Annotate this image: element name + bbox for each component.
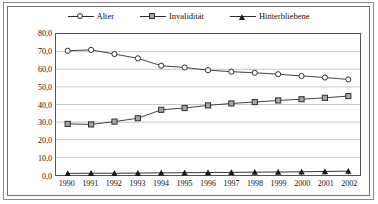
data-point: [159, 63, 164, 68]
x-tick-label: 2000: [294, 179, 310, 188]
y-tick-label: 30,0: [38, 118, 52, 127]
y-tick-label: 60,0: [38, 64, 52, 73]
x-tick-label: 1996: [200, 179, 216, 188]
x-axis-tick-labels: 1990199119921993199419951996199719981999…: [55, 179, 361, 193]
figure-outer-frame: Alter Invalidität Hinterbliebene 0,010,0…: [3, 2, 374, 200]
x-tick-label: 2001: [318, 179, 334, 188]
data-point: [276, 98, 281, 103]
data-point: [229, 69, 234, 74]
data-point: [276, 72, 281, 77]
figure-inner-frame: Alter Invalidität Hinterbliebene 0,010,0…: [7, 6, 370, 196]
y-tick-label: 0,0: [42, 172, 52, 181]
x-tick-label: 1993: [129, 179, 145, 188]
data-point: [88, 122, 93, 127]
x-tick-label: 1994: [153, 179, 169, 188]
chart-plot-area: [55, 33, 361, 176]
chart-series-layer: [56, 34, 360, 175]
data-point: [65, 121, 70, 126]
data-point: [346, 93, 351, 98]
y-tick-label: 50,0: [38, 82, 52, 91]
data-point: [135, 56, 140, 61]
series-hinterbliebene: [65, 168, 352, 176]
data-point: [65, 48, 70, 53]
y-tick-label: 70,0: [38, 46, 52, 55]
data-point: [322, 75, 327, 80]
data-point: [88, 47, 93, 52]
data-point: [112, 119, 117, 124]
data-point: [299, 73, 304, 78]
data-point: [252, 70, 257, 75]
x-tick-label: 1995: [176, 179, 192, 188]
data-point: [229, 101, 234, 106]
data-point: [205, 68, 210, 73]
data-point: [299, 97, 304, 102]
x-tick-label: 1997: [224, 179, 240, 188]
data-point: [346, 77, 351, 82]
chart-plot-wrapper: 0,010,020,030,040,050,060,070,080,0 1990…: [8, 7, 369, 195]
data-point: [205, 103, 210, 108]
x-tick-label: 1992: [106, 179, 122, 188]
series-alter: [65, 47, 351, 82]
x-tick-label: 2002: [341, 179, 357, 188]
y-tick-label: 40,0: [38, 100, 52, 109]
data-point: [112, 52, 117, 57]
x-tick-label: 1998: [247, 179, 263, 188]
data-point: [322, 95, 327, 100]
y-tick-label: 80,0: [38, 29, 52, 38]
data-point: [182, 105, 187, 110]
data-point: [135, 116, 140, 121]
data-point: [182, 65, 187, 70]
x-tick-label: 1990: [59, 179, 75, 188]
x-tick-label: 1999: [271, 179, 287, 188]
series-invalidität: [65, 93, 351, 127]
data-point: [159, 107, 164, 112]
data-point: [252, 99, 257, 104]
y-tick-label: 20,0: [38, 136, 52, 145]
y-axis-tick-labels: 0,010,020,030,040,050,060,070,080,0: [8, 33, 52, 176]
y-tick-label: 10,0: [38, 154, 52, 163]
x-tick-label: 1991: [82, 179, 98, 188]
